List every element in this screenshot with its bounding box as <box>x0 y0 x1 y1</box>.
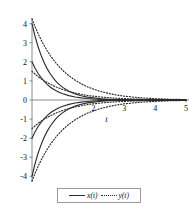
y-tick-label: -4 <box>20 172 27 181</box>
chart-curve <box>32 19 186 100</box>
chart-curve <box>32 100 186 181</box>
chart-figure: -4-3-2-1012342345t x(t) y(t) <box>0 0 196 212</box>
y-tick-label: -3 <box>20 153 27 162</box>
x-tick-label: 4 <box>153 104 157 113</box>
chart-curve <box>32 71 186 99</box>
legend-entry-x: x(t) <box>69 192 97 200</box>
legend-line-solid-icon <box>69 195 85 196</box>
x-tick-label: 3 <box>122 104 126 113</box>
legend-line-dotted-icon <box>101 195 117 196</box>
x-tick-label: 5 <box>184 104 188 113</box>
chart-legend: x(t) y(t) <box>57 188 141 203</box>
y-tick-label: 0 <box>23 96 27 105</box>
y-tick-label: 2 <box>23 58 27 67</box>
x-axis-label: t <box>105 114 108 124</box>
legend-entry-y: y(t) <box>101 192 129 200</box>
legend-label-x: x(t) <box>87 192 97 200</box>
legend-label-y: y(t) <box>119 192 129 200</box>
x-tick-label: 2 <box>92 104 96 113</box>
y-tick-label: 1 <box>23 77 27 86</box>
y-tick-label: -1 <box>20 115 27 124</box>
y-tick-label: 3 <box>23 39 27 48</box>
y-tick-label: 4 <box>23 20 27 29</box>
chart-curve <box>32 100 186 128</box>
plot-area: -4-3-2-1012342345t <box>0 0 196 212</box>
y-tick-label: -2 <box>20 134 27 143</box>
